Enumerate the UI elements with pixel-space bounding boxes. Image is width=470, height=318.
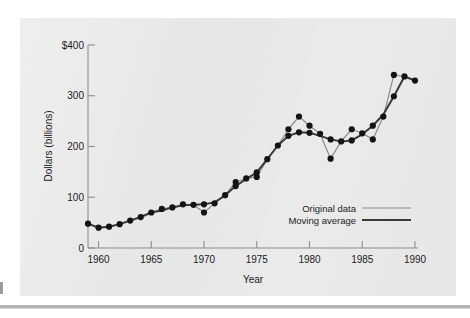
data-point (349, 126, 355, 132)
data-point (222, 192, 228, 198)
line-chart: 0100200300$400 1960196519701975198019851… (0, 0, 470, 318)
data-point (85, 221, 91, 227)
data-point (201, 209, 207, 215)
data-point (275, 142, 281, 148)
x-tick-label: 1960 (87, 254, 110, 265)
data-point (338, 138, 344, 144)
y-axis-title: Dollars (billions) (43, 110, 54, 181)
x-axis-tick-labels: 1960196519701975198019851990 (87, 254, 426, 265)
data-point (169, 204, 175, 210)
y-tick-label: 100 (67, 192, 84, 203)
data-point (359, 130, 365, 136)
data-point (412, 77, 418, 83)
y-tick-label: $400 (62, 40, 85, 51)
data-point (401, 73, 407, 79)
x-tick-label: 1980 (298, 254, 321, 265)
data-point (127, 217, 133, 223)
data-point (106, 224, 112, 230)
chart-legend: Original dataMoving average (288, 203, 411, 226)
data-point (306, 130, 312, 136)
data-point (328, 136, 334, 142)
data-point (95, 225, 101, 231)
data-point (190, 202, 196, 208)
x-tick-label: 1985 (351, 254, 374, 265)
legend-label: Original data (302, 203, 357, 214)
data-point (138, 214, 144, 220)
x-tick-label: 1975 (246, 254, 269, 265)
x-tick-label: 1970 (193, 254, 216, 265)
data-point (264, 156, 270, 162)
data-point (201, 201, 207, 207)
data-point (370, 136, 376, 142)
data-point (306, 123, 312, 129)
series-line-moving-average (88, 76, 415, 227)
data-point (148, 209, 154, 215)
data-point (391, 93, 397, 99)
footer-rule-secondary (0, 308, 470, 309)
data-point (254, 169, 260, 175)
data-point (296, 113, 302, 119)
series-line-original-data (88, 75, 415, 228)
data-markers-layer (85, 72, 418, 231)
data-point (159, 206, 165, 212)
data-point (317, 131, 323, 137)
data-point (370, 123, 376, 129)
data-point (296, 129, 302, 135)
data-point (117, 221, 123, 227)
data-point (285, 133, 291, 139)
y-axis-ticks (88, 45, 95, 248)
y-tick-label: 300 (67, 90, 84, 101)
x-tick-label: 1965 (140, 254, 163, 265)
data-point (285, 126, 291, 132)
data-series-layer (88, 75, 415, 228)
data-point (243, 175, 249, 181)
data-point (180, 201, 186, 207)
y-axis-tick-labels: 0100200300$400 (62, 40, 85, 254)
x-axis-ticks (99, 241, 415, 248)
data-point (328, 156, 334, 162)
data-point (380, 113, 386, 119)
legend-label: Moving average (288, 215, 356, 226)
page-edge-mark (0, 282, 3, 294)
data-point (233, 183, 239, 189)
x-tick-label: 1990 (404, 254, 427, 265)
data-point (211, 200, 217, 206)
data-point (391, 72, 397, 78)
y-tick-label: 0 (78, 243, 84, 254)
y-tick-label: 200 (67, 141, 84, 152)
figure-container: 0100200300$400 1960196519701975198019851… (0, 0, 470, 318)
x-axis-title: Year (243, 274, 264, 285)
data-point (349, 137, 355, 143)
